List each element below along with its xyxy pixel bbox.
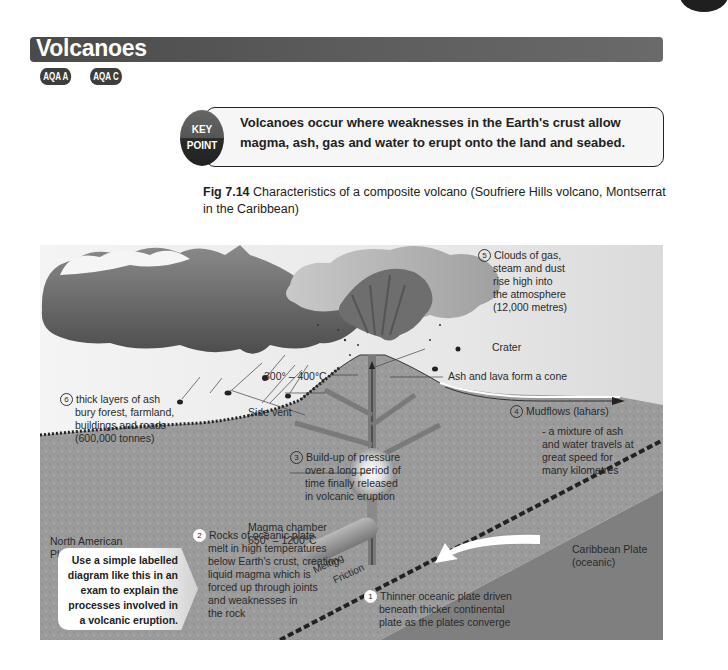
label-line: steam and dust [478,262,565,274]
label-clouds: 5Clouds of gas, steam and dust rise high… [478,249,567,314]
key-point-icon: KEY POINT [180,110,224,166]
tip-line: processes involved in [68,599,178,611]
label-line: (12,000 metres) [478,301,567,313]
label-line: (600,000 tonnes) [60,432,154,444]
label-line: thick layers of ash [76,393,160,405]
tip-line: diagram like this in an [68,569,178,581]
tip-line: Use a simple labelled [72,554,178,566]
label-line: great speed for [542,451,613,463]
step-number-2: 2 [193,529,206,542]
label-line: beneath thicker continental [364,603,505,615]
label-line: Build-up of pressure [306,451,400,463]
label-mudflows: 4Mudflows (lahars) [510,405,609,418]
exam-tip-text: Use a simple labelled diagram like this … [62,553,178,628]
label-crater: Crater [492,341,521,354]
label-line: - a mixture of ash [542,425,623,437]
label-line: many kilometres [542,464,618,476]
key-point-text: Volcanoes occur where weaknesses in the … [240,113,660,153]
label-line: time finally released [290,477,398,489]
step-number-3: 3 [290,451,303,464]
label-cone-temperature: 300° – 400°C [264,370,327,383]
step-number-5: 5 [478,249,491,262]
label-line: over a long period of [290,464,401,476]
page-corner-tab [680,0,728,12]
tip-line: a volcanic eruption. [79,614,178,626]
label-line: buildings and roads [60,419,166,431]
label-line: and water travels at [542,438,634,450]
label-line: plate as the plates converge [364,616,510,628]
spec-badge-aqa-a: AQA A [40,68,72,85]
label-line: bury forest, farmland, [60,406,174,418]
spec-badge-aqa-c: AQA C [90,68,122,85]
key-label: KEY [180,124,224,135]
label-line: the rock [193,607,245,619]
section-title-bar: Volcanoes [30,37,663,62]
label-line: Caribbean Plate [572,543,647,555]
label-pressure: 3Build-up of pressure over a long period… [290,451,401,503]
step-number-6: 6 [60,393,73,406]
label-mudflows-description: - a mixture of ash and water travels at … [542,425,634,477]
figure-number: Fig 7.14 [203,185,250,199]
label-line: Rocks of oceanic plate [209,529,315,541]
label-line: the atmosphere [478,288,566,300]
page-title: Volcanoes [36,35,147,62]
label-line: North American [50,535,122,547]
tip-line: exam to explain the [81,584,178,596]
label-line: (oceanic) [572,556,615,568]
label-line: melt in high temperatures [193,542,326,554]
figure-caption-text: Characteristics of a composite volcano (… [203,185,666,216]
label-line: Mudflows (lahars) [526,405,609,417]
label-line: in volcanic eruption [290,490,395,502]
label-line: rise high into [478,275,553,287]
step-number-1: 1 [364,590,377,603]
step-number-4: 4 [510,405,523,418]
label-line: forced up through joints [193,581,318,593]
label-ash-layers: 6thick layers of ash bury forest, farmla… [60,393,174,445]
label-caribbean-plate: Caribbean Plate (oceanic) [572,543,647,569]
label-line: Clouds of gas, [494,249,561,261]
figure-caption: Fig 7.14 Characteristics of a composite … [203,184,673,218]
label-line: Thinner oceanic plate driven [380,590,512,602]
label-subduction: 1Thinner oceanic plate driven beneath th… [364,590,512,629]
label-side-vent: Side vent [248,406,292,419]
label-ash-lava-cone: Ash and lava form a cone [448,370,567,383]
label-line: liquid magma which is [193,568,311,580]
point-label: POINT [180,140,224,151]
label-line: and weaknesses in [193,594,297,606]
